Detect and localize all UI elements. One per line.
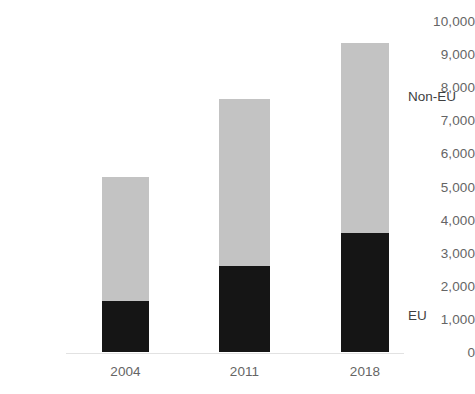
bar-segment-eu-2018[interactable]	[341, 233, 389, 352]
bar-segment-non-eu-2004[interactable]	[102, 177, 149, 301]
y-axis-tick-label: 6,000	[411, 146, 475, 161]
y-axis-tick-label: 7,000	[411, 113, 475, 128]
x-axis-tick-label-2011: 2011	[230, 364, 259, 379]
bar-segment-eu-2004[interactable]	[102, 301, 149, 352]
x-axis-tick-label-2004: 2004	[110, 364, 140, 379]
y-axis-tick-label: 3,000	[411, 245, 475, 260]
y-axis-tick-label: 4,000	[411, 212, 475, 227]
series-label-eu: EU	[408, 308, 427, 323]
y-axis-tick-label: 5,000	[411, 179, 475, 194]
y-axis-tick-label: 0	[411, 345, 475, 360]
x-axis-baseline	[66, 353, 404, 354]
bar-segment-non-eu-2018[interactable]	[341, 43, 389, 233]
stacked-bar-chart: 10,0009,0008,0007,0006,0005,0004,0003,00…	[0, 0, 475, 394]
series-label-non-eu: Non-EU	[408, 89, 456, 104]
y-axis-tick-label: 2,000	[411, 278, 475, 293]
x-axis-tick-label-2018: 2018	[350, 364, 380, 379]
y-axis-tick-label: 9,000	[411, 47, 475, 62]
bar-segment-eu-2011[interactable]	[219, 266, 270, 352]
plot-area: 10,0009,0008,0007,0006,0005,0004,0003,00…	[0, 0, 475, 394]
y-axis-tick-label: 10,000	[411, 14, 475, 29]
bar-segment-non-eu-2011[interactable]	[219, 99, 270, 266]
